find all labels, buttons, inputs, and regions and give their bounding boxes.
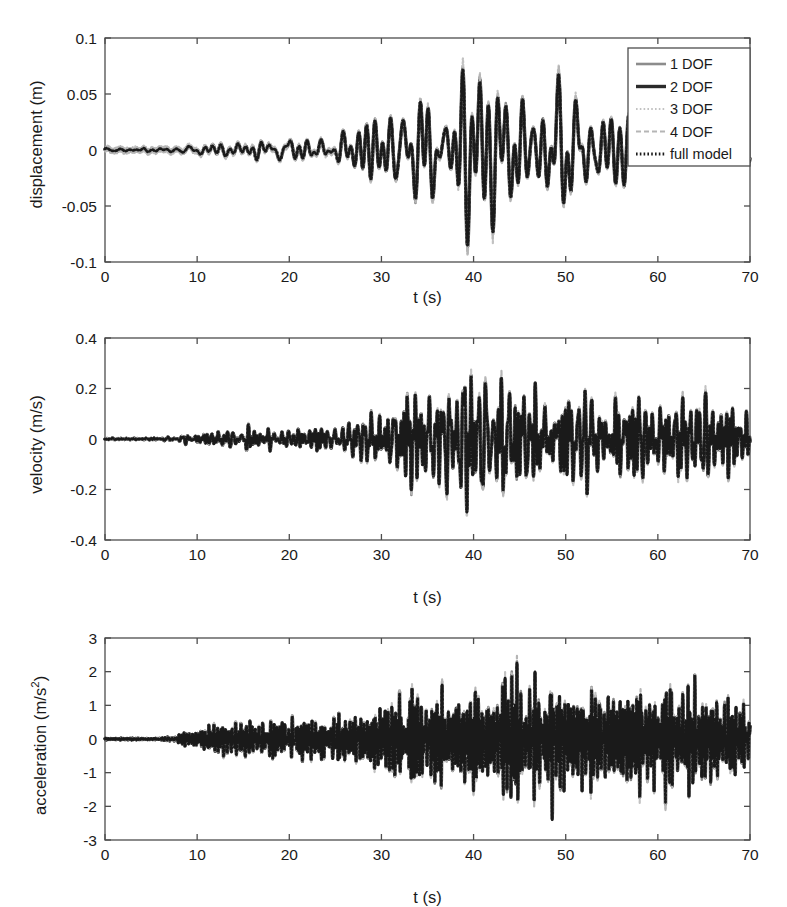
- ytick-label: -2: [83, 798, 97, 815]
- ytick-label: -1: [83, 764, 97, 781]
- legend-label-full-model: full model: [670, 146, 732, 162]
- xtick-label: 10: [189, 546, 207, 563]
- panel-acceleration: acceleration (m/s2) 010203040506070-3-2-…: [0, 600, 787, 903]
- series-line-full-model: [105, 663, 750, 820]
- legend: 1 DOF2 DOF3 DOF4 DOFfull model: [628, 48, 750, 166]
- ytick-label: -3: [83, 832, 97, 849]
- ylabel-displacement: displacement (m): [27, 65, 46, 225]
- xtick-label: 70: [741, 846, 759, 863]
- ytick-label: 0: [88, 431, 97, 448]
- ytick-label: -0.2: [70, 481, 97, 498]
- legend-label-4-dof: 4 DOF: [670, 124, 713, 140]
- ytick-label: 0: [88, 142, 97, 159]
- plot-area-acceleration: 010203040506070-3-2-10123: [0, 600, 787, 900]
- xtick-label: 70: [741, 268, 759, 285]
- ytick-label: 1: [88, 697, 97, 714]
- xtick-label: 0: [101, 268, 110, 285]
- xlabel-acceleration-t: t (s): [105, 888, 750, 907]
- xtick-label: 30: [373, 546, 391, 563]
- plot-area-velocity: 010203040506070-0.4-0.200.20.4: [0, 300, 787, 600]
- ytick-label: -0.05: [62, 198, 97, 215]
- legend-label-2-dof: 2 DOF: [670, 79, 713, 95]
- xtick-label: 60: [649, 846, 667, 863]
- ytick-label: 0.1: [75, 30, 97, 47]
- ytick-label: 0.4: [75, 330, 97, 347]
- ytick-label: 0.2: [75, 380, 97, 397]
- xtick-label: 10: [189, 268, 207, 285]
- xtick-label: 50: [557, 546, 575, 563]
- xtick-label: 40: [465, 546, 483, 563]
- xtick-label: 10: [189, 846, 207, 863]
- ytick-label: 0.05: [67, 86, 97, 103]
- xtick-label: 20: [281, 846, 299, 863]
- ytick-label: -0.4: [70, 532, 97, 549]
- xtick-label: 50: [557, 846, 575, 863]
- ylabel-acceleration-prefix: acceleration (m/s: [31, 688, 49, 815]
- ytick-label: -0.1: [70, 254, 97, 271]
- ylabel-acceleration-suffix: ): [31, 676, 49, 682]
- ytick-label: 2: [88, 663, 97, 680]
- xtick-label: 30: [373, 846, 391, 863]
- xtick-label: 40: [465, 268, 483, 285]
- plot-area-displacement: 010203040506070-0.1-0.0500.050.11 DOF2 D…: [0, 0, 787, 300]
- xtick-label: 0: [101, 546, 110, 563]
- ytick-label: 0: [88, 731, 97, 748]
- xtick-label: 20: [281, 268, 299, 285]
- legend-label-1-dof: 1 DOF: [670, 56, 713, 72]
- xtick-label: 60: [649, 546, 667, 563]
- panel-velocity: velocity (m/s) 010203040506070-0.4-0.200…: [0, 300, 787, 600]
- ylabel-velocity: velocity (m/s): [27, 365, 46, 525]
- xtick-label: 60: [649, 268, 667, 285]
- ylabel-acceleration-exponent: 2: [29, 681, 41, 688]
- xtick-label: 30: [373, 268, 391, 285]
- xtick-label: 0: [101, 846, 110, 863]
- ytick-label: 3: [88, 630, 97, 647]
- series-line-full-model: [105, 377, 750, 512]
- xtick-label: 20: [281, 546, 299, 563]
- xtick-label: 40: [465, 846, 483, 863]
- legend-label-3-dof: 3 DOF: [670, 101, 713, 117]
- ylabel-acceleration: acceleration (m/s2): [29, 658, 50, 833]
- panel-displacement: displacement (m) 010203040506070-0.1-0.0…: [0, 0, 787, 310]
- xtick-label: 70: [741, 546, 759, 563]
- xtick-label: 50: [557, 268, 575, 285]
